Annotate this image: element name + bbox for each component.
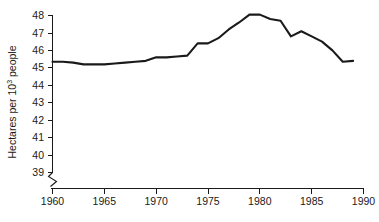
x-axis-tick-labels: 1960 1965 1970 1975 1980 1985 1990 (41, 195, 376, 207)
x-tick-label: 1980 (248, 195, 272, 207)
y-axis-break-icon (49, 173, 57, 187)
chart-figure: 48 47 46 45 44 43 42 41 40 39 1960 1965 … (0, 0, 379, 222)
x-axis-ticks (53, 189, 364, 194)
y-tick-label: 48 (32, 9, 44, 21)
y-tick-label: 43 (32, 96, 44, 108)
y-tick-label: 45 (32, 61, 44, 73)
x-tick-label: 1970 (145, 195, 169, 207)
y-tick-label: 40 (32, 149, 44, 161)
y-tick-label: 47 (32, 27, 44, 39)
line-chart: 48 47 46 45 44 43 42 41 40 39 1960 1965 … (0, 0, 379, 222)
y-axis-tick-labels: 48 47 46 45 44 43 42 41 40 39 (32, 9, 44, 178)
x-tick-label: 1985 (300, 195, 324, 207)
svg-text:Hectares per 103 people: Hectares per 103 people (6, 45, 18, 158)
y-tick-label: 39 (32, 166, 44, 178)
x-tick-label: 1975 (196, 195, 220, 207)
y-tick-label: 44 (32, 79, 44, 91)
y-tick-label: 46 (32, 44, 44, 56)
y-axis-title: Hectares per 103 people (6, 45, 18, 158)
y-axis-title-after: people (6, 45, 18, 80)
y-axis-title-before: Hectares per 10 (6, 84, 18, 159)
x-tick-label: 1990 (352, 195, 376, 207)
x-tick-label: 1965 (93, 195, 117, 207)
y-axis-ticks (48, 16, 53, 173)
data-series-line (53, 15, 354, 65)
y-tick-label: 42 (32, 114, 44, 126)
x-tick-label: 1960 (41, 195, 65, 207)
y-tick-label: 41 (32, 131, 44, 143)
